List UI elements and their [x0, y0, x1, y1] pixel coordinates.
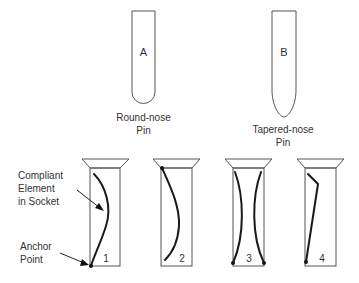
pin-b-caption-line2: Pin — [276, 137, 290, 148]
socket-1-number: 1 — [103, 253, 109, 264]
callout-compliant-element: Compliant Element in Socket — [18, 170, 104, 211]
socket-4-funnel — [297, 159, 344, 168]
callout-compliant-line2: Element — [18, 183, 55, 194]
pin-b-letter: B — [280, 46, 287, 58]
socket-1-anchor-point — [89, 264, 93, 268]
pin-socket-diagram: A Round-nose Pin B Tapered-nose Pin 1 2 … — [0, 0, 359, 283]
socket-2-body — [161, 168, 192, 266]
socket-2-funnel — [153, 159, 200, 168]
socket-3-number: 3 — [246, 253, 252, 264]
socket-3-funnel — [225, 159, 272, 168]
pin-a: A Round-nose Pin — [116, 11, 171, 136]
socket-3-anchor-point-right — [262, 261, 266, 265]
callout-compliant-line3: in Socket — [18, 196, 59, 207]
socket-4-body — [305, 168, 336, 266]
callout-anchor-line2: Point — [20, 254, 43, 265]
socket-4-compliant-element — [306, 174, 318, 262]
callout-compliant-arrow-line — [77, 190, 100, 208]
socket-2-number: 2 — [179, 253, 185, 264]
socket-2-compliant-element — [162, 168, 179, 260]
socket-4: 4 — [297, 159, 344, 266]
callout-compliant-line1: Compliant — [18, 170, 63, 181]
callout-anchor-arrowhead — [80, 259, 89, 266]
socket-3-compliant-element-right — [254, 172, 264, 263]
socket-1: 1 — [82, 159, 129, 268]
pin-a-caption-line1: Round-nose — [116, 112, 171, 123]
callout-compliant-arrowhead — [95, 203, 104, 211]
socket-2: 2 — [153, 159, 200, 266]
callout-anchor-arrow-line — [60, 253, 84, 263]
socket-4-anchor-point — [304, 260, 308, 264]
pin-a-letter: A — [140, 46, 148, 58]
socket-2-anchor-point — [160, 166, 164, 170]
callout-anchor-point: Anchor Point — [20, 241, 89, 266]
socket-1-body — [90, 168, 120, 266]
pin-b: B Tapered-nose Pin — [252, 11, 314, 148]
socket-3-anchor-point-left — [231, 261, 235, 265]
socket-3-compliant-element-left — [233, 172, 242, 263]
pin-b-caption-line1: Tapered-nose — [252, 124, 314, 135]
pin-a-caption-line2: Pin — [136, 125, 150, 136]
socket-4-number: 4 — [319, 253, 325, 264]
pin-b-outline — [272, 11, 296, 117]
socket-3: 3 — [225, 159, 272, 266]
socket-1-funnel — [82, 159, 129, 168]
callout-anchor-line1: Anchor — [20, 241, 52, 252]
